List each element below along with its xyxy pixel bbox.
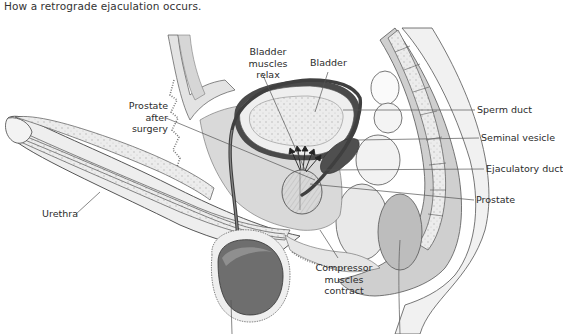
label-line: muscles: [245, 58, 291, 70]
label-compressor-muscles-contract: Compressor muscles contract: [314, 262, 374, 297]
label-line: after: [100, 112, 168, 124]
label-line: surgery: [100, 123, 168, 135]
label-line: Bladder: [245, 46, 291, 58]
label-line: contract: [314, 285, 374, 297]
prostate: [282, 170, 322, 214]
label-line: relax: [245, 69, 291, 81]
label-ejaculatory-duct: Ejaculatory duct: [486, 163, 563, 175]
label-line: muscles: [314, 274, 374, 286]
label-bladder: Bladder: [310, 57, 347, 69]
testis: [211, 230, 290, 322]
label-sperm-duct: Sperm duct: [477, 104, 532, 116]
label-prostate: Prostate: [476, 194, 515, 206]
label-line: Prostate: [100, 100, 168, 112]
label-bladder-muscles-relax: Bladder muscles relax: [245, 46, 291, 81]
label-line: Compressor: [314, 262, 374, 274]
label-seminal-vesicle: Seminal vesicle: [481, 132, 555, 144]
label-prostate-after-surgery: Prostate after surgery: [100, 100, 168, 135]
label-urethra: Urethra: [42, 208, 78, 220]
